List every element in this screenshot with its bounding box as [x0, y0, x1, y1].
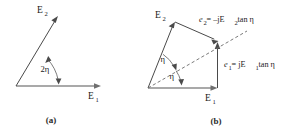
panel-b-equation-e1: e 1 = jE 1 tan η	[224, 60, 275, 71]
vector-diagram-svg: E 2 E 1 2η (a)	[0, 0, 293, 135]
panel-a-e1-label: E	[88, 91, 94, 101]
panel-a-angle-arc-arrowhead-lower	[56, 79, 62, 85]
panel-a-e1-arrowhead	[94, 83, 101, 89]
panel-b-equation-e1-tail: tan η	[259, 60, 275, 69]
panel-a-e2-arrowhead	[51, 16, 58, 23]
panel-b-lower-angle-arc-arrowhead	[178, 79, 184, 86]
panel-b-equation-e1-rest: = jE	[232, 60, 246, 69]
panel-a-angle-label: 2η	[41, 64, 50, 74]
panel-b-e1-arrowhead	[211, 85, 218, 91]
panel-a-group: E 2 E 1 2η (a)	[16, 5, 101, 125]
panel-b-lower-angle-arc-path	[176, 71, 181, 81]
panel-b-e2-label-subscript: 2	[163, 15, 166, 22]
panel-b-e2-component-vector	[175, 22, 219, 45]
panel-b-e1-label: E	[205, 93, 211, 103]
panel-a-e2-label: E	[37, 5, 43, 15]
panel-b-group: E 2 E 1 η η e 2 = –jE 2 tan η e 1 = jE	[148, 10, 275, 126]
panel-b-caption: (b)	[211, 116, 222, 126]
panel-b-e1-label-subscript: 1	[213, 98, 216, 105]
panel-b-equation-e2-rest: = –jE	[207, 15, 225, 24]
panel-b-upper-angle-arc-arrowhead	[172, 64, 177, 71]
panel-b-e2-arrowhead	[169, 22, 175, 28]
panel-b-e2-label: E	[155, 10, 161, 20]
panel-b-e1-component-vector	[215, 42, 221, 88]
panel-a-caption: (a)	[46, 115, 57, 125]
panel-b-upper-angle-label: η	[161, 54, 166, 64]
panel-b-equation-e2-tail: tan η	[238, 15, 254, 24]
panel-b-equation-e1-lead: e	[224, 60, 228, 69]
panel-b-upper-angle-arc	[163, 54, 177, 70]
panel-a-e2-vector	[16, 16, 58, 86]
panel-b-e2-component-line	[175, 22, 214, 39]
panel-b-equation-e2-lead: e	[199, 15, 203, 24]
panel-a-e1-label-subscript: 1	[96, 96, 99, 103]
panel-b-lower-angle-arc	[176, 71, 184, 86]
figure-root: E 2 E 1 2η (a)	[0, 0, 293, 135]
panel-b-lower-angle-label: η	[170, 71, 175, 81]
panel-a-e2-line	[16, 21, 55, 87]
panel-b-equation-e2: e 2 = –jE 2 tan η	[199, 15, 254, 26]
panel-b-e1-vector	[148, 85, 218, 91]
panel-a-e2-label-subscript: 2	[45, 10, 48, 17]
